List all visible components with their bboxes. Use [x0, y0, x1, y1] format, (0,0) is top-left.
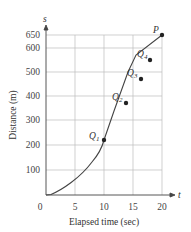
x-tick-labels: 0 5 10 15 20 [38, 202, 167, 212]
y-tick-labels: 650 600 500 400 300 200 100 [26, 30, 41, 175]
y-axis-label: Distance (m) [8, 90, 19, 139]
svg-text:500: 500 [26, 67, 41, 77]
svg-text:650: 650 [26, 30, 41, 40]
x-axis-symbol: t [178, 190, 181, 200]
svg-text:10: 10 [99, 202, 109, 212]
y-axis-symbol: s [43, 14, 47, 24]
x-axis-label: Elapsed time (sec) [69, 217, 139, 228]
label-q4: Q4 [137, 49, 148, 61]
svg-text:400: 400 [26, 91, 41, 101]
label-q1: Q1 [89, 131, 99, 143]
svg-text:300: 300 [26, 115, 41, 125]
svg-text:600: 600 [26, 43, 41, 53]
point-q1 [102, 138, 106, 142]
distance-time-chart: t s 650 600 500 400 300 200 100 0 5 10 1… [0, 0, 191, 232]
svg-text:0: 0 [38, 202, 43, 212]
svg-text:15: 15 [128, 202, 138, 212]
label-p: P [152, 25, 159, 35]
point-q2 [124, 101, 128, 105]
svg-text:100: 100 [26, 165, 41, 175]
point-q3 [139, 77, 143, 81]
svg-text:200: 200 [26, 140, 41, 150]
svg-text:20: 20 [157, 202, 167, 212]
point-q4 [148, 58, 152, 62]
label-q3: Q3 [127, 68, 138, 80]
axes [44, 25, 175, 197]
svg-text:5: 5 [73, 202, 78, 212]
point-p [160, 33, 164, 37]
